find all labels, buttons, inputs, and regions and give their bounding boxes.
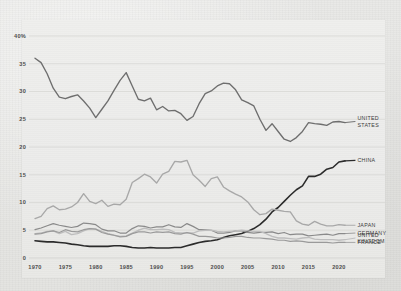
y-axis-tick-30: 30 xyxy=(4,88,26,94)
x-axis-tick-2010: 2010 xyxy=(265,264,291,270)
series-leader-germany xyxy=(345,233,355,234)
x-axis-tick-2015: 2015 xyxy=(296,264,322,270)
series-label-line: UNITED xyxy=(357,115,379,121)
y-axis-tick-15: 15 xyxy=(4,172,26,178)
y-axis-tick-20: 20 xyxy=(4,144,26,150)
x-axis-tick-1985: 1985 xyxy=(113,264,139,270)
gridlines xyxy=(29,36,385,258)
line-chart xyxy=(0,0,401,291)
x-axis-tick-1995: 1995 xyxy=(174,264,200,270)
series-label-japan: JAPAN xyxy=(357,222,375,228)
series-label-united-states: UNITEDSTATES xyxy=(357,115,379,127)
x-axis-tick-1980: 1980 xyxy=(83,264,109,270)
series-line-france xyxy=(35,229,345,243)
series-label-line: STATES xyxy=(357,122,379,128)
x-axis-tick-1975: 1975 xyxy=(52,264,78,270)
x-axis-tick-1990: 1990 xyxy=(144,264,170,270)
x-axis-tick-2000: 2000 xyxy=(204,264,230,270)
y-axis-tick-40pct: 40% xyxy=(4,33,26,39)
series-leader-china xyxy=(345,160,355,161)
y-axis-tick-25: 25 xyxy=(4,116,26,122)
series-label-line: CHINA xyxy=(357,157,375,163)
x-axis-tick-1970: 1970 xyxy=(22,264,48,270)
series-label-line: JAPAN xyxy=(357,222,375,228)
series-line-china xyxy=(35,161,345,248)
y-axis-tick-35: 35 xyxy=(4,61,26,67)
chart-svg xyxy=(0,0,401,291)
series-line-japan xyxy=(35,160,345,225)
y-axis-tick-10: 10 xyxy=(4,199,26,205)
series-label-line: FRANCE xyxy=(357,239,381,245)
y-axis-tick-0: 0 xyxy=(4,255,26,261)
x-axis-tick-2005: 2005 xyxy=(235,264,261,270)
series-leader-united-kingdom xyxy=(345,238,355,240)
series-label-france: FRANCE xyxy=(357,239,381,245)
series-leader-united-states xyxy=(345,121,355,122)
series-label-china: CHINA xyxy=(357,157,375,163)
series-line-united-states xyxy=(35,58,345,141)
y-axis-tick-5: 5 xyxy=(4,227,26,233)
x-axis-tick-2020: 2020 xyxy=(326,264,352,270)
